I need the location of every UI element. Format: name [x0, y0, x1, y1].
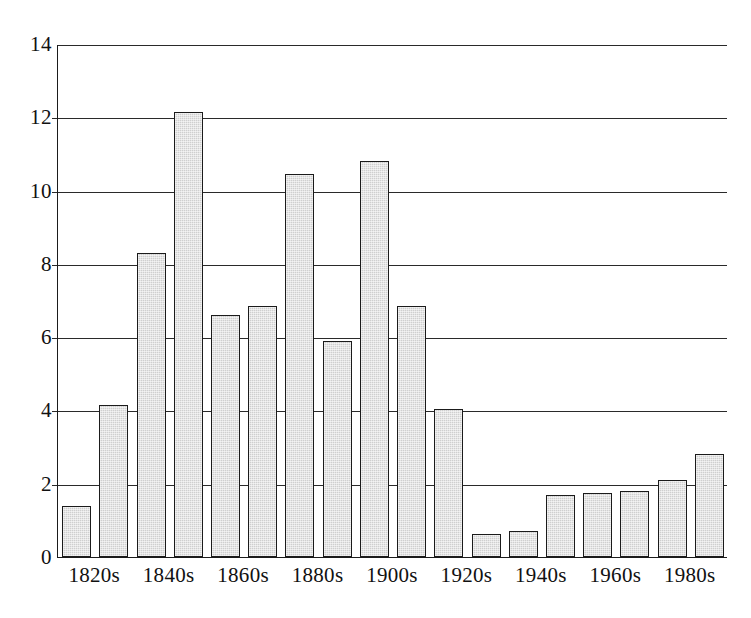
bar — [211, 315, 240, 557]
y-tick-label: 8 — [8, 254, 52, 275]
x-tick-label: 1840s — [129, 562, 209, 588]
bar — [248, 306, 277, 557]
y-tick-label: 0 — [8, 547, 52, 568]
bar — [472, 534, 501, 557]
bar — [174, 112, 203, 557]
bar — [583, 493, 612, 557]
gridline-y-14 — [58, 45, 727, 46]
x-axis: 1820s1840s1860s1880s1900s1920s1940s1960s… — [57, 560, 727, 600]
x-tick-label: 1900s — [352, 562, 432, 588]
bar — [360, 161, 389, 557]
bar — [695, 454, 724, 557]
x-tick-label: 1980s — [650, 562, 730, 588]
bar — [397, 306, 426, 557]
y-tick-label: 12 — [8, 107, 52, 128]
plot-area — [57, 45, 727, 558]
x-tick-label: 1920s — [426, 562, 506, 588]
bar — [434, 409, 463, 557]
y-tick-label: 14 — [8, 34, 52, 55]
x-tick-label: 1880s — [278, 562, 358, 588]
x-tick-label: 1820s — [54, 562, 134, 588]
bar-chart-figure: 02468101214 1820s1840s1860s1880s1900s192… — [0, 0, 751, 618]
gridline-y-10 — [58, 192, 727, 193]
bar — [620, 491, 649, 557]
gridline-y-12 — [58, 118, 727, 119]
bar — [546, 495, 575, 557]
y-tick-label: 6 — [8, 327, 52, 348]
x-tick-label: 1940s — [501, 562, 581, 588]
bar — [658, 480, 687, 557]
y-tick-label: 10 — [8, 181, 52, 202]
bar — [137, 253, 166, 557]
x-tick-label: 1860s — [203, 562, 283, 588]
y-axis: 02468101214 — [0, 45, 52, 558]
y-tick-label: 4 — [8, 400, 52, 421]
bar — [62, 506, 91, 557]
bar — [99, 405, 128, 557]
bar — [285, 174, 314, 557]
x-tick-label: 1960s — [575, 562, 655, 588]
y-tick-label: 2 — [8, 474, 52, 495]
bar — [509, 531, 538, 557]
bar — [323, 341, 352, 557]
